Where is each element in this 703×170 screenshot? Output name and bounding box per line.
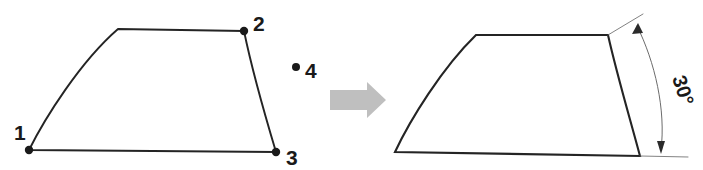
vertex-dot-1 [25,146,33,154]
right-shape-group [395,35,640,156]
angle-value-label: 30° [668,72,698,108]
angle-arc [637,26,662,150]
vertex-label-3: 3 [286,146,298,169]
vertex-label-4: 4 [305,59,317,82]
angle-arrow-head-top [632,23,643,34]
figure-canvas: 1 2 3 4 30° [0,0,703,170]
angle-arrow-head-bottom [657,141,665,154]
extension-line-lower [640,156,688,157]
rotated-quadrilateral-outline [395,35,640,156]
transform-arrow-group [330,82,386,118]
vertex-dot-4 [292,63,300,71]
left-shape-group: 1 2 3 4 [14,12,317,169]
transform-arrow-icon [330,82,386,118]
vertex-label-2: 2 [253,12,265,35]
vertex-dot-3 [272,148,280,156]
vertex-label-1: 1 [14,121,26,144]
figure-container: 1 2 3 4 30° [0,0,703,170]
original-quadrilateral-outline [29,29,276,152]
vertex-dot-2 [240,27,248,35]
